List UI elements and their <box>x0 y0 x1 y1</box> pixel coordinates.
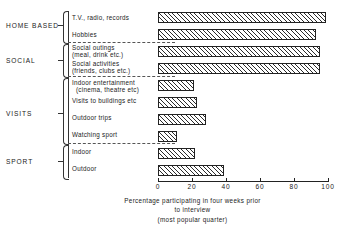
x-axis-caption-line3: (most popular quarter) <box>0 216 349 223</box>
group-label-visits: VISITS <box>6 110 32 117</box>
group-separator-2 <box>68 76 175 77</box>
row-label-visits-to-buildings: Visits to buildings etc <box>72 97 136 104</box>
category-axis-spine <box>68 11 69 178</box>
bar-visits-to-buildings <box>158 97 197 108</box>
row-label-social-outings: Social outings (meal, drink etc.) <box>72 44 123 59</box>
bar-social-activities <box>158 63 320 74</box>
bar-indoor-entertainment <box>158 80 194 91</box>
x-axis-tick-label-0: 0 <box>156 183 160 190</box>
row-label-outdoor-trips: Outdoor trips <box>72 114 112 121</box>
x-axis-tick-60 <box>260 178 261 182</box>
group-separator-1 <box>68 42 175 43</box>
brace-nub-social <box>58 60 63 61</box>
bar-watching-sport <box>158 131 177 142</box>
row-label-line1: Watching sport <box>72 131 117 138</box>
row-label-line2: (friends, clubs etc.) <box>72 67 130 74</box>
brace-nub-visits <box>58 113 63 114</box>
group-label-social: SOCIAL <box>6 57 36 64</box>
row-label-line1: Social outings <box>72 44 123 51</box>
x-axis-tick-40 <box>226 178 227 182</box>
x-axis-tick-label-20: 20 <box>188 183 197 190</box>
row-label-tv-radio-records: T.V., radio, records <box>72 14 129 21</box>
bar-social-outings <box>158 46 320 57</box>
group-label-home-based: HOME BASED <box>6 22 59 29</box>
row-label-outdoor-sport: Outdoor <box>72 165 97 172</box>
group-label-sport: SPORT <box>6 158 33 165</box>
row-label-line2: (cinema, theatre etc) <box>72 86 139 93</box>
bar-tv-radio-records <box>158 12 326 23</box>
bar-hobbies <box>158 29 316 40</box>
row-label-social-activities: Social activities (friends, clubs etc.) <box>72 60 130 75</box>
x-axis-caption-line1: Percentage participating in four weeks p… <box>0 197 349 204</box>
x-axis-tick-100 <box>328 178 329 182</box>
bar-indoor-sport <box>158 148 195 159</box>
x-axis-tick-20 <box>192 178 193 182</box>
brace-nub-sport <box>58 161 63 162</box>
x-axis-tick-label-100: 100 <box>321 183 334 190</box>
x-axis-tick-label-60: 60 <box>256 183 265 190</box>
row-label-line1: Outdoor trips <box>72 114 112 121</box>
bar-outdoor-trips <box>158 114 206 125</box>
x-axis-tick-80 <box>294 178 295 182</box>
row-label-line1: Social activities <box>72 60 130 67</box>
row-label-line1: Hobbies <box>72 31 97 38</box>
row-label-indoor-sport: Indoor <box>72 148 91 155</box>
x-axis-tick-0 <box>158 178 159 182</box>
row-label-line1: Indoor entertainment <box>72 79 139 86</box>
group-separator-3 <box>68 143 175 144</box>
row-label-indoor-entertainment: Indoor entertainment (cinema, theatre et… <box>72 79 139 94</box>
row-label-line2: (meal, drink etc.) <box>72 51 123 58</box>
x-axis-tick-label-40: 40 <box>222 183 231 190</box>
row-label-hobbies: Hobbies <box>72 31 97 38</box>
x-axis-tick-label-80: 80 <box>290 183 299 190</box>
x-axis-line <box>158 181 328 182</box>
brace-nub-home-based <box>58 25 63 26</box>
row-label-watching-sport: Watching sport <box>72 131 117 138</box>
row-label-line1: Outdoor <box>72 165 97 172</box>
bar-outdoor-sport <box>158 165 224 176</box>
x-axis-caption-line2: to interview <box>0 206 349 213</box>
row-label-line1: Visits to buildings etc <box>72 97 136 104</box>
row-label-line1: Indoor <box>72 148 91 155</box>
row-label-line1: T.V., radio, records <box>72 14 129 21</box>
bar-chart: HOME BASED SOCIAL VISITS SPORT T.V., rad… <box>0 0 349 234</box>
